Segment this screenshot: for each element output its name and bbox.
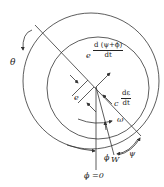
tangential-term: d (ψ+ϕ) dt: [93, 42, 123, 59]
diagram-lines: [0, 0, 164, 187]
tangential-velocity-arrow: [96, 73, 110, 87]
load-label: W: [111, 156, 119, 164]
radial-term: dε dt: [121, 90, 131, 107]
theta-arrow: [23, 30, 32, 50]
c-prefix: c: [114, 100, 118, 108]
omega-arrow: [78, 119, 112, 123]
e-label: e: [74, 94, 79, 102]
e-prefix: e: [86, 52, 91, 60]
radial-velocity-arrow: [103, 95, 112, 104]
bearing-diagram: θ e e d (ψ+ϕ) dt c dε dt ω ϕ W ψ ϕ =0: [0, 0, 164, 187]
phi-zero-label: ϕ =0: [84, 172, 104, 180]
psi-label: ψ: [129, 150, 135, 158]
phi-label: ϕ: [104, 154, 109, 162]
theta-label: θ: [10, 58, 15, 67]
omega-label: ω: [117, 116, 124, 124]
